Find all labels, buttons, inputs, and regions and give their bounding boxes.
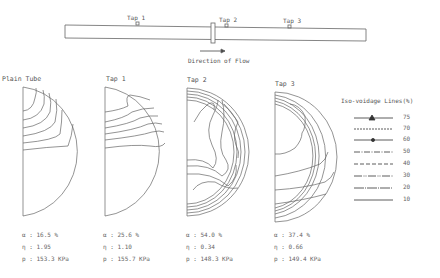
tap-1-label: Tap 1: [127, 14, 145, 21]
legend-item-40: 40: [353, 160, 433, 170]
panel-title-plain-tube: Plain Tube: [2, 75, 41, 83]
tap-3-label: Tap 3: [283, 17, 301, 24]
efficiency: η : 1.10: [103, 241, 150, 253]
legend-title: Iso-voidage Lines(%): [341, 97, 413, 104]
void-fraction: α : 16.5 %: [22, 229, 69, 241]
cross-section-plain-tube: [23, 87, 77, 216]
pipe-schematic: [65, 22, 366, 53]
cross-section-tap-3: [275, 92, 337, 222]
efficiency: η : 0.34: [186, 241, 233, 253]
pressure: p : 148.3 KPa: [186, 253, 233, 265]
pressure: p : 153.3 KPa: [22, 253, 69, 265]
legend-item-50: 50: [353, 148, 433, 158]
pressure: p : 155.7 KPa: [103, 253, 150, 265]
legend-item-75: 75: [353, 114, 433, 124]
stats-tap-3: α : 37.4 % η : 0.66 p : 149.4 KPa: [274, 229, 321, 265]
panel-title-tap-1: Tap 1: [106, 75, 126, 83]
legend-item-70: 70: [353, 125, 433, 135]
flow-direction-label: Direction of Flow: [188, 57, 249, 64]
tap-2-label: Tap 2: [219, 16, 237, 23]
legend-item-20: 20: [353, 184, 433, 194]
efficiency: η : 1.95: [22, 241, 69, 253]
cross-section-tap-2: [187, 88, 249, 216]
void-fraction: α : 25.6 %: [103, 229, 150, 241]
stats-tap-2: α : 54.0 % η : 0.34 p : 148.3 KPa: [186, 229, 233, 265]
panel-title-tap-2: Tap 2: [187, 76, 207, 84]
legend-item-10: 10: [353, 196, 433, 206]
panel-title-tap-3: Tap 3: [275, 80, 295, 88]
void-fraction: α : 54.0 %: [186, 229, 233, 241]
void-fraction: α : 37.4 %: [274, 229, 321, 241]
legend-item-30: 30: [353, 172, 433, 182]
stats-tap-1: α : 25.6 % η : 1.10 p : 155.7 KPa: [103, 229, 150, 265]
pressure: p : 149.4 KPa: [274, 253, 321, 265]
cross-section-tap-1: [105, 87, 165, 216]
efficiency: η : 0.66: [274, 241, 321, 253]
stats-plain-tube: α : 16.5 % η : 1.95 p : 153.3 KPa: [22, 229, 69, 265]
legend-item-60: 60: [353, 136, 433, 146]
